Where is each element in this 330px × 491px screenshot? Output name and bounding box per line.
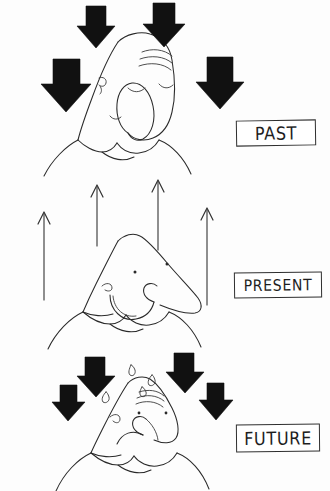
ink-drawing-layer <box>0 0 330 491</box>
arrow-down-icon <box>196 57 244 109</box>
arrow-down-icon <box>41 59 91 112</box>
label-box-past: PAST <box>236 119 316 146</box>
arrow-up-icon <box>201 208 213 305</box>
label-text-present: PRESENT <box>244 276 313 295</box>
arrow-up-icon <box>91 185 103 246</box>
arrow-down-icon <box>52 385 85 421</box>
label-box-present: PRESENT <box>234 271 322 298</box>
arrow-down-icon <box>77 357 115 397</box>
present-up-arrows <box>38 180 213 305</box>
arrow-down-icon <box>77 6 115 48</box>
past-down-arrows <box>41 3 244 112</box>
arrow-up-icon <box>38 212 50 300</box>
arrow-down-icon <box>143 3 185 47</box>
arrow-down-icon <box>166 353 204 393</box>
label-text-future: FUTURE <box>244 427 312 449</box>
panel-present-figure <box>48 234 201 349</box>
arrow-up-icon <box>152 180 164 250</box>
label-text-past: PAST <box>255 122 298 144</box>
label-box-future: FUTURE <box>236 424 320 453</box>
cartoon-scene: PAST PRESENT FUTURE <box>0 0 330 491</box>
arrow-down-icon <box>199 383 233 420</box>
